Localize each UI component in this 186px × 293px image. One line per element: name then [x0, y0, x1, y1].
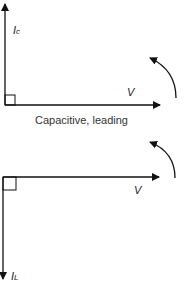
right-angle-icon: [3, 177, 16, 190]
caption: Capacitive, leading: [35, 114, 128, 126]
ic-label: Ic: [13, 24, 20, 36]
v-label-bottom: V: [134, 184, 141, 196]
v-label-top: V: [127, 86, 134, 98]
rotation-arrow-icon: [150, 142, 175, 178]
top-diagram: [5, 4, 176, 105]
rotation-arrow-icon: [150, 58, 176, 98]
phasor-diagrams: [0, 0, 186, 293]
right-angle-icon: [5, 95, 15, 105]
bottom-diagram: [3, 142, 175, 279]
il-label: IL: [11, 270, 19, 282]
